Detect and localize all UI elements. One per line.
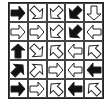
grid-cell bbox=[84, 3, 103, 22]
arrow-up-left-icon bbox=[86, 43, 102, 59]
grid-cell bbox=[84, 22, 103, 41]
grid-cell bbox=[65, 22, 84, 41]
grid-cell bbox=[47, 41, 66, 60]
grid-cell bbox=[9, 41, 28, 60]
grid-cell bbox=[65, 79, 84, 98]
arrow-left-icon bbox=[86, 62, 102, 78]
arrow-up-icon bbox=[10, 43, 26, 59]
grid-cell bbox=[28, 3, 47, 22]
grid-cell bbox=[65, 41, 84, 60]
arrow-right-icon bbox=[48, 62, 64, 78]
arrow-up-left-icon bbox=[48, 43, 64, 59]
grid-cell bbox=[47, 3, 66, 22]
grid-cell bbox=[9, 22, 28, 41]
grid-cell bbox=[28, 22, 47, 41]
arrow-up-right-icon bbox=[10, 62, 26, 78]
arrow-down-left-icon bbox=[67, 5, 83, 21]
grid-cell bbox=[47, 22, 66, 41]
grid-cell bbox=[28, 79, 47, 98]
grid-cell bbox=[47, 79, 66, 98]
arrow-down-icon bbox=[86, 5, 102, 21]
grid-cell bbox=[28, 60, 47, 79]
arrow-left-icon bbox=[67, 43, 83, 59]
arrow-down-left-icon bbox=[48, 24, 64, 40]
arrow-up-left-icon bbox=[48, 81, 64, 97]
arrow-down-left-icon bbox=[48, 5, 64, 21]
grid-cell bbox=[84, 41, 103, 60]
grid-cell bbox=[65, 60, 84, 79]
arrow-right-icon bbox=[10, 81, 26, 97]
arrow-up-right-icon bbox=[29, 62, 45, 78]
arrow-right-icon bbox=[10, 24, 26, 40]
grid-cell bbox=[9, 3, 28, 22]
grid-cell bbox=[84, 79, 103, 98]
arrow-right-icon bbox=[10, 5, 26, 21]
grid-cell bbox=[84, 60, 103, 79]
grid-cell bbox=[47, 60, 66, 79]
grid-cell bbox=[9, 79, 28, 98]
arrow-left-icon bbox=[67, 81, 83, 97]
arrow-down-right-icon bbox=[29, 43, 45, 59]
grid-cell bbox=[9, 60, 28, 79]
arrow-down-left-icon bbox=[67, 24, 83, 40]
arrow-left-icon bbox=[67, 62, 83, 78]
arrow-right-icon bbox=[29, 24, 45, 40]
grid-cell bbox=[65, 3, 84, 22]
arrow-left-icon bbox=[86, 24, 102, 40]
grid-cell bbox=[28, 41, 47, 60]
arrow-right-icon bbox=[29, 81, 45, 97]
arrow-grid bbox=[8, 2, 104, 99]
arrow-down-right-icon bbox=[29, 5, 45, 21]
arrow-up-left-icon bbox=[86, 81, 102, 97]
